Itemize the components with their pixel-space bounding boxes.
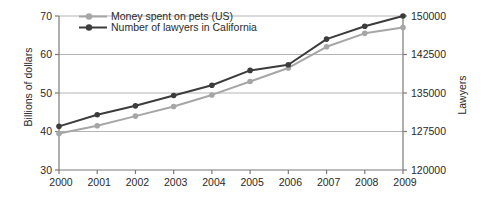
right-tick-label: 150000 (411, 10, 446, 22)
series-point-1-6 (286, 62, 292, 68)
left-tick-label: 60 (40, 48, 52, 60)
x-tick-label: 2009 (393, 176, 417, 188)
x-tick-label: 2004 (202, 176, 226, 188)
series-point-0-3 (171, 104, 177, 110)
right-tick-label: 142500 (411, 48, 446, 60)
left-tick-label: 40 (40, 125, 52, 137)
series-point-1-8 (362, 23, 368, 29)
series-point-0-8 (362, 31, 368, 37)
series-point-1-1 (94, 112, 100, 118)
series-point-0-7 (324, 44, 330, 50)
x-tick-label: 2000 (49, 176, 73, 188)
legend-item-lawyers: Number of lawyers in California (79, 22, 257, 33)
chart-legend: Money spent on pets (US) Number of lawye… (79, 11, 257, 33)
series-point-0-4 (209, 92, 215, 98)
series-point-1-0 (56, 124, 62, 130)
x-tick-label: 2003 (164, 176, 188, 188)
series-point-1-3 (171, 93, 177, 99)
pets-series-swatch (79, 12, 107, 21)
left-tick-label: 30 (40, 164, 52, 176)
x-tick-label: 2006 (279, 176, 303, 188)
series-point-1-5 (247, 68, 253, 74)
series-line-0 (59, 28, 403, 134)
left-tick-label: 50 (40, 87, 52, 99)
x-tick-label: 2001 (88, 176, 112, 188)
left-axis-title: Billions of dollars (22, 48, 34, 127)
series-point-1-9 (400, 13, 406, 19)
chart: 3040506070120000127500135000142500150000… (0, 0, 486, 199)
series-point-0-0 (56, 131, 62, 137)
right-tick-label: 120000 (411, 164, 446, 176)
series-point-0-5 (247, 79, 253, 85)
series-point-0-9 (400, 25, 406, 31)
series-point-1-4 (209, 83, 215, 89)
series-point-0-1 (94, 123, 100, 129)
legend-label-lawyers: Number of lawyers in California (111, 22, 257, 33)
series-point-1-7 (324, 36, 330, 42)
right-axis-title: Lawyers (456, 75, 468, 114)
lawyers-series-swatch (79, 23, 107, 32)
right-tick-label: 135000 (411, 87, 446, 99)
x-tick-label: 2008 (355, 176, 379, 188)
x-tick-label: 2005 (240, 176, 264, 188)
x-tick-label: 2002 (126, 176, 150, 188)
series-point-1-2 (133, 103, 139, 109)
right-tick-label: 127500 (411, 125, 446, 137)
series-point-0-2 (133, 113, 139, 119)
left-tick-label: 70 (40, 10, 52, 22)
x-tick-label: 2007 (317, 176, 341, 188)
